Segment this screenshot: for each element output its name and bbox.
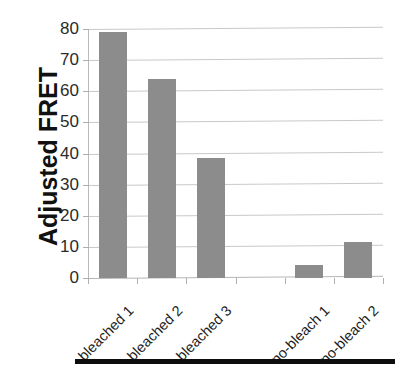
y-axis-tick — [83, 216, 89, 217]
gridline — [88, 89, 383, 92]
bar-no-bleach-1[interactable] — [295, 265, 323, 278]
y-axis-title: Adjusted FRET — [34, 47, 63, 267]
gridline — [88, 58, 383, 61]
x-axis-tick — [186, 278, 187, 284]
y-axis-tick-label: 20 — [60, 206, 79, 226]
y-axis-tick — [83, 91, 89, 92]
bar-bleached-3[interactable] — [197, 158, 225, 278]
gridline — [88, 120, 383, 123]
x-axis-tick — [285, 278, 286, 284]
x-axis-tick — [137, 278, 138, 284]
y-axis-tick-label: 80 — [60, 19, 79, 39]
gridline — [88, 182, 383, 185]
y-axis-tick-label: 60 — [60, 81, 79, 101]
bar-chart-figure: Adjusted FRET 80706050403020100 bleached… — [0, 0, 417, 379]
y-axis-tick — [83, 247, 89, 248]
y-axis-tick-label: 0 — [70, 268, 79, 288]
y-axis-tick-label: 30 — [60, 175, 79, 195]
x-axis-tick — [236, 278, 237, 284]
bar-no-bleach-2[interactable] — [344, 242, 372, 278]
x-axis-tick — [88, 278, 89, 284]
x-axis-label: no-bleach 2 — [229, 302, 382, 379]
plot-area: 80706050403020100 — [88, 25, 383, 282]
y-axis-tick — [83, 60, 89, 61]
x-axis-tick — [383, 278, 384, 284]
y-axis-tick — [83, 185, 89, 186]
y-axis-tick — [83, 122, 89, 123]
y-axis-tick-label: 10 — [60, 237, 79, 257]
bottom-rule — [75, 359, 395, 364]
x-axis-tick — [334, 278, 335, 284]
y-axis-tick-label: 70 — [60, 50, 79, 70]
gridline — [88, 214, 383, 217]
y-axis-tick — [83, 29, 89, 30]
bar-bleached-1[interactable] — [99, 32, 127, 278]
gridline — [88, 27, 383, 30]
gridline — [88, 245, 383, 248]
y-axis-tick — [83, 154, 89, 155]
y-axis-tick-label: 50 — [60, 112, 79, 132]
bar-bleached-2[interactable] — [148, 79, 176, 278]
y-axis-tick-label: 40 — [60, 144, 79, 164]
gridline — [88, 151, 383, 154]
